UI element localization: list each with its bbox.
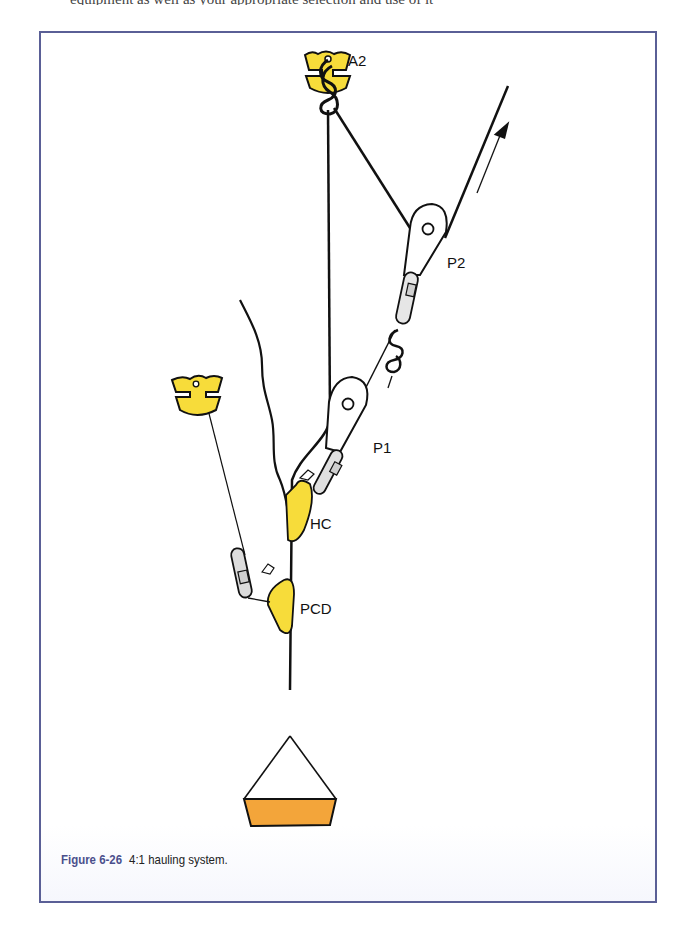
label-a2: A2: [348, 52, 366, 69]
label-p2: P2: [447, 254, 465, 271]
label-pcd: PCD: [300, 600, 332, 617]
load-haul-bag-icon: [244, 736, 336, 826]
rock-edge: [240, 300, 288, 512]
rope-a2-to-p1: [328, 110, 330, 418]
rope-a2-to-p2: [334, 108, 410, 228]
hauling-system-diagram: A2 P2 P1 HC: [0, 0, 690, 933]
rope-main: [290, 418, 330, 690]
left-anchor-icon: [172, 376, 222, 415]
pulley-p1-icon: [311, 377, 367, 496]
rope-haul-strand: [445, 86, 508, 238]
progress-capture-device-icon: [230, 547, 294, 633]
label-p1: P1: [373, 439, 391, 456]
label-hc: HC: [310, 515, 332, 532]
anchor-a2-icon: [305, 52, 350, 115]
pulley-p2-icon: [387, 204, 447, 388]
haul-direction-arrow-icon: [477, 118, 511, 193]
